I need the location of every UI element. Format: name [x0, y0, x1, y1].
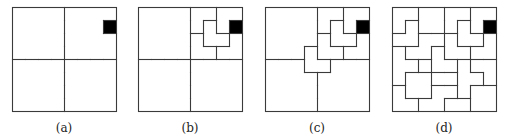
panel-label-d: (d) — [392, 121, 496, 135]
panel-c — [265, 7, 369, 111]
defective-cell — [356, 20, 370, 34]
tromino-board-d — [392, 7, 496, 111]
tromino-board-c — [265, 7, 369, 111]
defective-cell — [103, 20, 117, 34]
panel-label-c: (c) — [265, 121, 369, 135]
panel-label-b: (b) — [138, 121, 242, 135]
tromino-board-b — [138, 7, 242, 111]
tromino-board-a — [12, 7, 116, 111]
panel-b — [138, 7, 242, 111]
defective-cell — [483, 20, 497, 34]
panel-d — [392, 7, 496, 111]
panel-a — [12, 7, 116, 111]
defective-cell — [229, 20, 243, 34]
panel-label-a: (a) — [12, 121, 116, 135]
